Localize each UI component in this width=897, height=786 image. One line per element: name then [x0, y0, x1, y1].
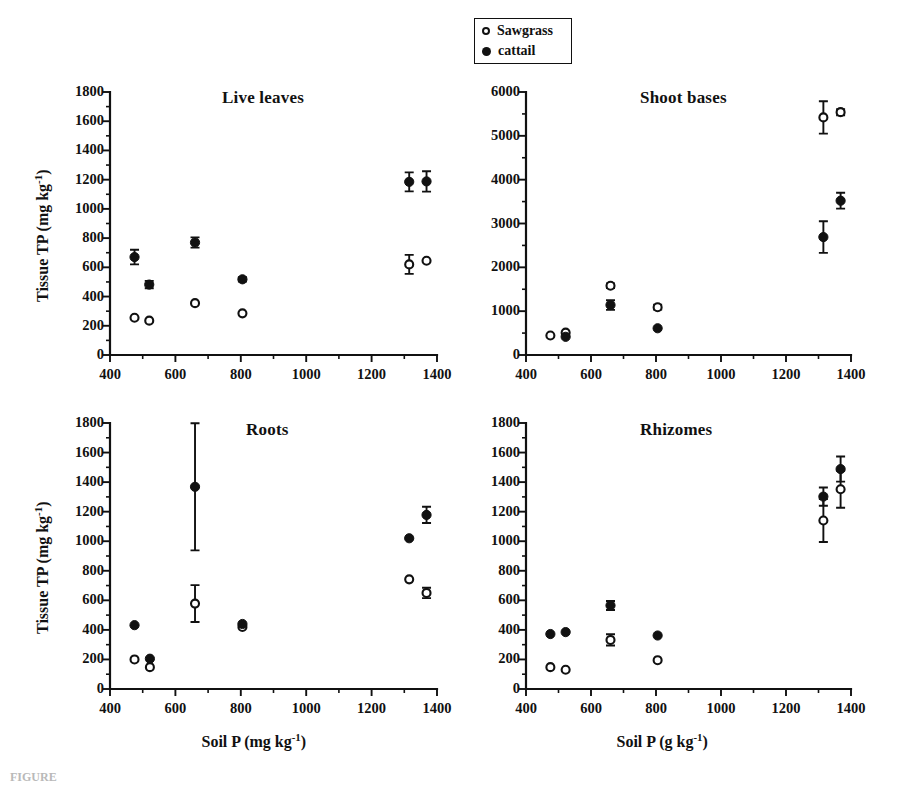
data-point-open — [837, 108, 845, 116]
y-tick-label: 1600 — [52, 112, 104, 129]
data-point-open — [654, 656, 662, 664]
y-axis-label-live-leaves: Tissue TP (mg kg-1) — [32, 169, 52, 302]
y-tick-label: 1800 — [52, 414, 104, 431]
axis-spine — [110, 423, 437, 689]
data-point-filled — [130, 621, 139, 630]
y-tick-label: 5000 — [468, 127, 520, 144]
y-tick-label: 400 — [52, 621, 104, 638]
series-sawgrass — [131, 575, 432, 671]
x-axis-label-rhizomes: Soil P (g kg-1) — [617, 731, 708, 751]
y-tick-label: 0 — [468, 680, 520, 697]
y-tick-label: 1200 — [52, 503, 104, 520]
data-point-filled — [561, 332, 570, 341]
panel-title-rhizomes: Rhizomes — [640, 420, 712, 440]
y-tick-label: 1400 — [52, 473, 104, 490]
data-point-open — [131, 655, 139, 663]
plot-area-live-leaves — [96, 78, 451, 369]
plot-area-shoot-bases — [512, 78, 865, 369]
panel-title-roots: Roots — [246, 420, 289, 440]
x-tick-label: 600 — [563, 366, 619, 383]
y-tick-label: 200 — [52, 650, 104, 667]
x-tick-label: 800 — [213, 366, 269, 383]
x-tick-label: 1200 — [344, 366, 400, 383]
y-tick-label: 1000 — [468, 532, 520, 549]
data-point-filled — [561, 628, 570, 637]
data-point-filled — [422, 177, 431, 186]
legend-item-cattail: cattail — [482, 41, 535, 61]
data-point-open — [546, 663, 554, 671]
y-tick-label: 400 — [52, 288, 104, 305]
x-tick-label: 1400 — [409, 366, 465, 383]
x-tick-label: 1200 — [758, 366, 814, 383]
data-point-filled — [422, 510, 431, 519]
data-point-open — [607, 636, 615, 644]
data-point-filled — [130, 253, 139, 262]
y-tick-label: 400 — [468, 621, 520, 638]
data-point-open — [191, 299, 199, 307]
y-tick-label: 200 — [52, 317, 104, 334]
y-tick-label: 4000 — [468, 171, 520, 188]
y-tick-label: 800 — [52, 229, 104, 246]
data-point-open — [423, 257, 431, 265]
x-tick-label: 1400 — [823, 700, 879, 717]
x-tick-label: 400 — [82, 366, 138, 383]
y-tick-label: 6000 — [468, 83, 520, 100]
figure-root: Live leaves02004006008001000120014001600… — [0, 0, 897, 786]
data-point-filled — [819, 492, 828, 501]
x-tick-label: 1400 — [409, 700, 465, 717]
y-tick-label: 1200 — [52, 171, 104, 188]
y-tick-label: 3000 — [468, 215, 520, 232]
data-point-open — [146, 663, 154, 671]
panel-title-shoot-bases: Shoot bases — [640, 88, 727, 108]
data-point-open — [546, 331, 554, 339]
figure-caption: FIGURE — [10, 770, 57, 785]
y-tick-label: 800 — [52, 562, 104, 579]
y-tick-label: 0 — [468, 346, 520, 363]
axis-spine — [526, 423, 851, 689]
data-point-open — [819, 517, 827, 525]
data-point-filled — [238, 619, 247, 628]
series-sawgrass — [131, 255, 431, 325]
data-point-filled — [145, 654, 154, 663]
series-sawgrass — [546, 471, 845, 674]
plot-area-roots — [96, 409, 451, 703]
series-sawgrass — [546, 101, 845, 339]
x-tick-label: 1200 — [758, 700, 814, 717]
data-point-filled — [653, 324, 662, 333]
y-tick-label: 2000 — [468, 258, 520, 275]
data-point-open — [654, 303, 662, 311]
data-point-filled — [238, 275, 247, 284]
y-tick-label: 1400 — [52, 141, 104, 158]
data-point-open — [405, 575, 413, 583]
series-cattail — [561, 193, 845, 342]
data-point-filled — [145, 280, 154, 289]
data-point-open — [423, 589, 431, 597]
y-tick-label: 1800 — [468, 414, 520, 431]
y-tick-label: 1000 — [52, 200, 104, 217]
y-tick-label: 1600 — [52, 444, 104, 461]
x-tick-label: 1200 — [344, 700, 400, 717]
series-cattail — [130, 423, 431, 663]
filled-circle-marker-icon — [482, 47, 491, 56]
data-point-filled — [546, 629, 555, 638]
data-point-filled — [819, 232, 828, 241]
data-point-open — [131, 314, 139, 322]
data-point-filled — [836, 196, 845, 205]
data-point-filled — [606, 300, 615, 309]
y-axis-label-roots: Tissue TP (mg kg-1) — [32, 502, 52, 635]
x-tick-label: 600 — [147, 366, 203, 383]
y-tick-label: 200 — [468, 650, 520, 667]
x-tick-label: 600 — [147, 700, 203, 717]
y-tick-label: 1000 — [52, 532, 104, 549]
x-tick-label: 400 — [82, 700, 138, 717]
y-tick-label: 600 — [52, 591, 104, 608]
x-tick-label: 1000 — [693, 366, 749, 383]
y-tick-label: 0 — [52, 346, 104, 363]
data-point-filled — [606, 601, 615, 610]
legend-label-cattail: cattail — [498, 43, 535, 59]
y-tick-label: 600 — [52, 258, 104, 275]
data-point-open — [819, 113, 827, 121]
y-tick-label: 1000 — [468, 302, 520, 319]
x-tick-label: 800 — [628, 366, 684, 383]
x-tick-label: 1000 — [693, 700, 749, 717]
